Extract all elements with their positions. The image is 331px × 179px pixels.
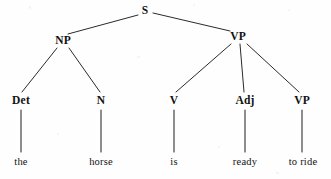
syntax-tree-diagram: S NP VP Det N V Adj VP the horse is read… (0, 0, 331, 179)
tree-edges-layer (0, 0, 331, 179)
tree-node-np: NP (55, 35, 71, 47)
tree-edge-s-to-np (68, 15, 138, 34)
tree-node-adj: Adj (235, 95, 254, 107)
tree-edge-np-to-n (69, 48, 100, 92)
tree-leaf-to-ride: to ride (289, 157, 318, 168)
tree-leaf-ready: ready (233, 157, 257, 168)
tree-edge-s-to-vp_top (153, 13, 230, 31)
tree-node-vp-predicate: VP (230, 31, 246, 43)
tree-node-det: Det (12, 95, 30, 107)
tree-node-v: V (170, 95, 179, 107)
tree-edge-np-to-det (22, 48, 57, 92)
tree-edge-vp_top-to-vp_low (247, 44, 299, 92)
tree-leaf-is: is (170, 157, 177, 168)
tree-leaf-horse: horse (89, 157, 113, 168)
tree-node-s: S (142, 5, 149, 17)
tree-leaf-the: the (14, 157, 27, 168)
tree-edge-vp_top-to-v (176, 44, 231, 92)
tree-edge-vp_top-to-adj (240, 44, 244, 92)
tree-node-n: N (97, 95, 106, 107)
tree-node-vp-infinitive: VP (294, 95, 310, 107)
